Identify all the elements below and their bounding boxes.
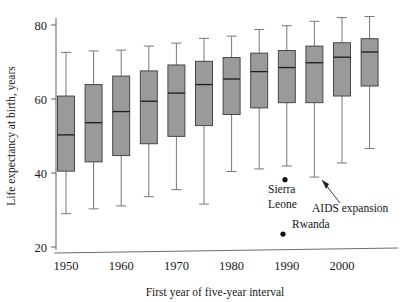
x-tick-label-1980: 1980 (219, 259, 244, 273)
box-plot-2000 (334, 18, 351, 163)
box-plot-1950 (58, 52, 75, 213)
box-body-2005 (361, 39, 378, 86)
annotation-sierra: Sierra (268, 183, 295, 195)
x-axis-line (54, 248, 398, 253)
box-body-1950 (58, 96, 75, 171)
box-body-1990 (278, 51, 295, 103)
y-tick-label-40: 40 (35, 167, 48, 181)
box-body-1965 (140, 71, 157, 144)
y-tick-label-80: 80 (35, 19, 48, 33)
x-axis-title: First year of five-year interval (146, 286, 285, 299)
false (282, 177, 287, 182)
annotation-leone: Leone (268, 198, 297, 210)
box-body-2000 (334, 43, 351, 96)
box-plot-1955 (85, 51, 102, 209)
box-plot-2005 (361, 16, 378, 148)
box-body-1995 (306, 46, 323, 103)
box-plot-1985 (251, 29, 268, 168)
box-body-1980 (223, 58, 240, 115)
x-tick-label-1960: 1960 (109, 259, 134, 273)
box-plot-1995 (306, 21, 323, 177)
x-tick-label-1990: 1990 (274, 259, 299, 273)
box-plot-1980 (223, 36, 240, 171)
box-body-1975 (196, 61, 213, 125)
x-tick-label-1950: 1950 (54, 259, 79, 273)
y-tick-label-60: 60 (35, 93, 48, 107)
y-axis-title: Life expectancy at birth, years (5, 66, 18, 206)
box-body-1970 (168, 65, 185, 136)
box-plot-chart: 20406080195019601970198019902000First ye… (0, 0, 404, 302)
annotation-rwanda: Rwanda (292, 218, 330, 230)
false (280, 231, 285, 236)
y-tick-label-20: 20 (35, 241, 48, 255)
chart-canvas: 20406080195019601970198019902000First ye… (0, 0, 404, 302)
box-body-1985 (251, 53, 268, 108)
x-tick-label-2000: 2000 (330, 259, 355, 273)
box-series (58, 16, 379, 213)
box-plot-1990 (278, 26, 295, 166)
annotation-aids-expansion: AIDS expansion (312, 202, 389, 215)
box-plot-1960 (113, 50, 130, 206)
box-plot-1965 (140, 46, 157, 197)
box-body-1960 (113, 76, 130, 156)
annotations: SierraLeoneAIDS expansionRwanda (268, 180, 389, 230)
box-plot-1970 (168, 43, 185, 190)
box-plot-1975 (196, 38, 213, 204)
x-tick-label-1970: 1970 (164, 259, 189, 273)
